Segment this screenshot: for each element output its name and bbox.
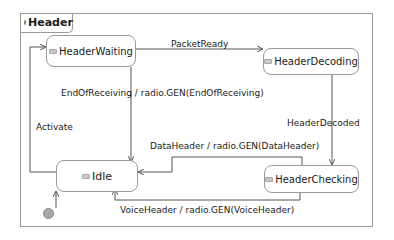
state-header-waiting[interactable]: HeaderWaiting [46, 35, 136, 67]
state-icon [265, 177, 273, 182]
state-header-checking[interactable]: HeaderChecking [264, 165, 359, 193]
state-icon [82, 174, 90, 179]
label-end-of-receiving[interactable]: EndOfReceiving / radio.GEN(EndOfReceivin… [61, 88, 264, 98]
initial-state[interactable] [43, 208, 54, 219]
label-packet-ready[interactable]: PacketReady [171, 39, 228, 49]
label-header-decoded[interactable]: HeaderDecoded [287, 118, 360, 128]
state-label: HeaderWaiting [59, 46, 133, 57]
label-data-header[interactable]: DataHeader / radio.GEN(DataHeader) [150, 141, 319, 151]
state-header-decoding[interactable]: HeaderDecoding [263, 48, 359, 75]
state-label: Idle [92, 170, 112, 183]
state-idle[interactable]: Idle [56, 160, 138, 192]
label-voice-header[interactable]: VoiceHeader / radio.GEN(VoiceHeader) [120, 205, 294, 215]
state-label: HeaderChecking [275, 174, 358, 185]
state-label: HeaderDecoding [274, 56, 358, 67]
state-icon [264, 59, 272, 64]
label-activate[interactable]: Activate [36, 122, 73, 132]
state-icon [49, 49, 57, 54]
